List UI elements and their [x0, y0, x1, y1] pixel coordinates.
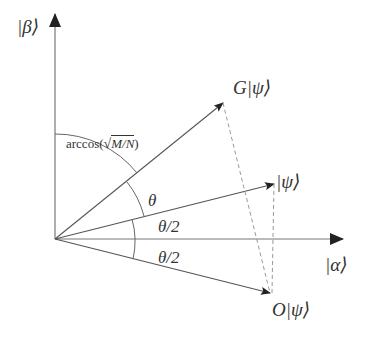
beta-axis-label: |β⟩	[17, 17, 39, 36]
theta-half-lower-label: θ/2	[158, 249, 180, 266]
g-psi-vector	[55, 103, 223, 239]
arccos-label: arccos(√M/N)	[66, 137, 139, 151]
theta-arc	[127, 182, 144, 216]
g-psi-label: G|ψ⟩	[233, 78, 271, 97]
dashed-g-to-o	[223, 103, 270, 293]
grover-diagram: |β⟩ |α⟩ G|ψ⟩ |ψ⟩ O|ψ⟩ arccos(√M/N) θ θ/2…	[0, 0, 365, 341]
arccos-prefix: arccos(	[66, 136, 104, 151]
theta-label: θ	[148, 192, 156, 209]
arccos-radicand: M/N	[111, 135, 134, 151]
diagram-canvas	[0, 0, 365, 341]
theta-half-upper-label: θ/2	[158, 218, 180, 235]
arccos-suffix: )	[134, 136, 138, 151]
psi-label: |ψ⟩	[276, 172, 300, 191]
o-psi-label: O|ψ⟩	[272, 300, 310, 319]
alpha-axis-label: |α⟩	[325, 255, 348, 274]
